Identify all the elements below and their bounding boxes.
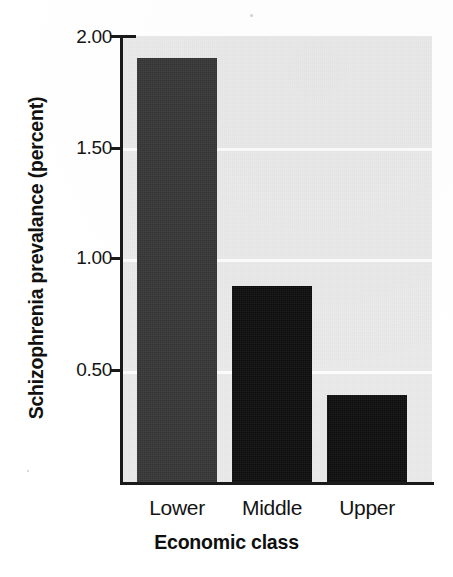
y-tick-mark-1-50 [110, 147, 122, 150]
x-axis-line [120, 482, 434, 485]
x-tick-label-upper: Upper [339, 496, 395, 520]
bar-upper-texture [327, 395, 407, 482]
bar-middle [232, 286, 312, 482]
bar-lower [137, 58, 217, 482]
bar-chart-figure: Schizophrenia prevalance (percent) 2.00 … [0, 0, 453, 577]
y-tick-mark-0-50 [110, 369, 122, 372]
y-axis-line [120, 35, 123, 484]
bar-middle-texture [232, 286, 312, 482]
bar-lower-texture [137, 58, 217, 482]
x-tick-label-middle: Middle [242, 496, 302, 520]
y-tick-label-1-00: 1.00 [46, 247, 112, 269]
x-tick-label-lower: Lower [149, 496, 205, 520]
y-tick-label-2-00: 2.00 [46, 26, 112, 48]
y-tick-mark-1-00 [110, 257, 122, 260]
bar-upper [327, 395, 407, 482]
y-axis-tick-labels: 2.00 1.50 1.00 0.50 [46, 0, 112, 577]
y-tick-mark-2-00 [110, 35, 122, 38]
scan-speck [250, 14, 253, 17]
plot-area [122, 36, 432, 482]
y-tick-label-0-50: 0.50 [46, 359, 112, 381]
y-axis-top-cap [120, 35, 136, 38]
y-tick-label-1-50: 1.50 [46, 137, 112, 159]
x-axis-title: Economic class [0, 531, 453, 554]
